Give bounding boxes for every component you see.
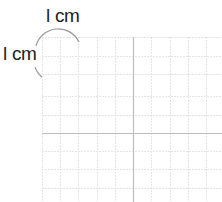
- axes: [42, 37, 222, 202]
- unit-label-left: l cm: [3, 44, 37, 63]
- unit-label-top: l cm: [46, 6, 80, 25]
- grid-diagram: l cm l cm: [0, 0, 222, 202]
- coordinate-grid: [0, 0, 222, 202]
- grid-lines: [42, 37, 222, 202]
- unit-arc: [35, 29, 79, 77]
